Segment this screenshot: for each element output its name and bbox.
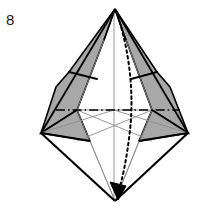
origami-diagram — [0, 0, 201, 217]
origami-figure: 8 — [0, 0, 201, 217]
step-number-label: 8 — [6, 12, 14, 27]
